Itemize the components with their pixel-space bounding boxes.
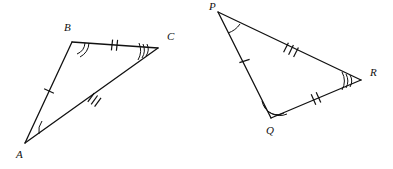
vertex-label-c: C	[167, 30, 175, 42]
geometry-figure: A B C	[0, 0, 393, 169]
vertex-label-p: P	[208, 0, 216, 12]
side-pq	[218, 12, 271, 118]
triangle-pqr-edges	[218, 12, 361, 118]
triangle-pqr: P Q R	[208, 0, 377, 136]
angle-arc-p	[228, 24, 240, 33]
angle-arc-q	[262, 101, 287, 116]
side-ac	[25, 48, 158, 143]
vertex-label-r: R	[369, 66, 377, 78]
side-ab	[25, 42, 72, 143]
triangle-abc-edges	[25, 42, 158, 143]
side-pr	[218, 12, 361, 80]
vertex-label-q: Q	[266, 124, 274, 136]
tick-marks-pq	[239, 59, 249, 62]
geometry-canvas: A B C	[0, 0, 393, 169]
triangle-abc: A B C	[15, 21, 175, 160]
vertex-label-a: A	[15, 148, 23, 160]
tick-marks-ac	[88, 93, 101, 107]
angle-arc-c	[138, 43, 148, 60]
vertex-label-b: B	[64, 21, 71, 33]
angle-arc-b	[77, 43, 89, 57]
